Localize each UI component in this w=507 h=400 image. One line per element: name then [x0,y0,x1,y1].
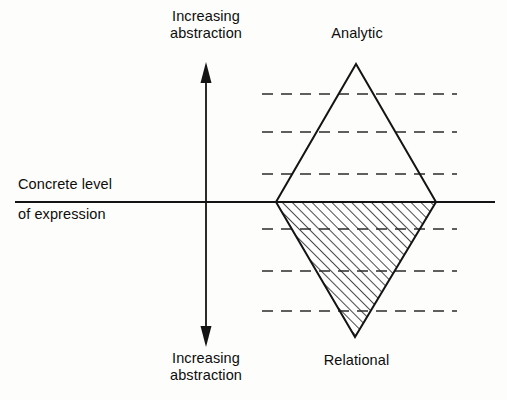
increasing-abstraction-axis [201,62,212,347]
lower-triangle-relational [276,202,436,337]
arrow-down-icon [201,326,212,347]
label-increasing-abstraction-bottom: Increasing abstraction [146,350,266,384]
diagram-figure [0,0,507,400]
arrow-up-icon [201,62,212,83]
dashed-reference-lines [262,94,457,174]
label-analytic: Analytic [297,25,417,42]
label-of-expression: of expression [18,206,168,223]
label-concrete-level: Concrete level [18,176,168,193]
diagram-canvas: Increasing abstraction Increasing abstra… [0,0,507,400]
upper-triangle-analytic [276,64,436,202]
label-relational: Relational [294,352,419,369]
label-increasing-abstraction-top: Increasing abstraction [146,8,266,42]
